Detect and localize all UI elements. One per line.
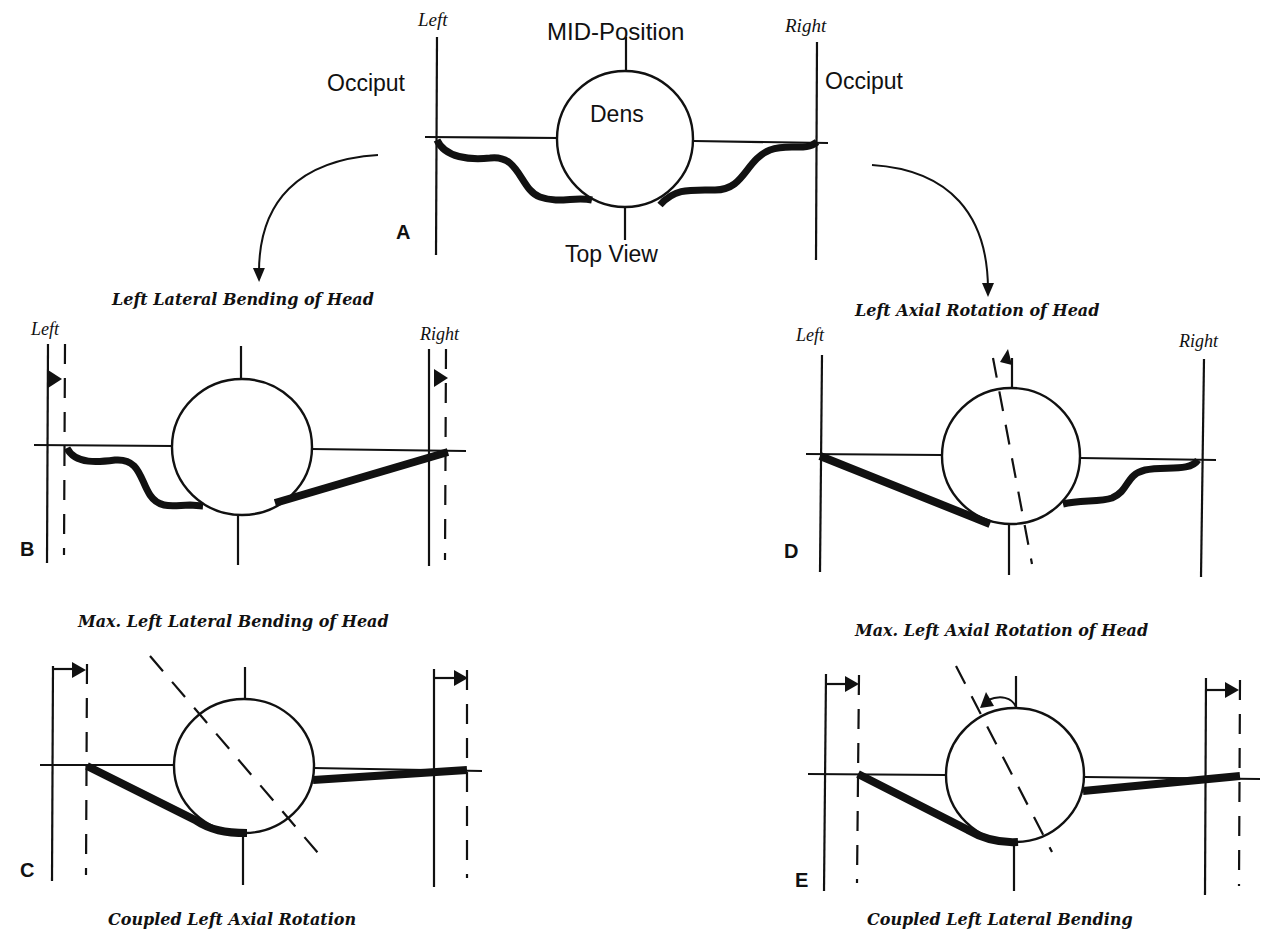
panel-c-right-alar-ligament-taut <box>313 770 467 780</box>
panel-b-title: Left Lateral Bending of Head <box>111 290 374 309</box>
panel-d-left-label: Left <box>795 325 825 345</box>
panel-b-horizontal-axis-left <box>34 445 173 446</box>
panel-a-horizontal-axis-left <box>425 137 560 138</box>
arrow-a-to-b <box>259 155 378 275</box>
panel-a-left-occiput-label: Occiput <box>327 70 406 96</box>
panel-b-left-shift-arrow-icon <box>48 370 62 388</box>
panel-c-letter: C <box>20 859 34 881</box>
panel-a-right-occiput-line <box>816 42 817 260</box>
panel-c-title: Max. Left Lateral Bending of Head <box>77 612 389 631</box>
diagram-canvas: Left MID-Position Right Occiput Occiput … <box>0 0 1283 939</box>
panel-c-left-shift-arrow-icon <box>72 662 86 678</box>
panel-b-right-label: Right <box>419 324 460 344</box>
panel-e-letter: E <box>795 869 808 891</box>
panel-e-left-shifted-line <box>857 675 859 883</box>
panel-d-dens-circle <box>942 388 1080 524</box>
panel-b: Left Lateral Bending of Head Left Right … <box>20 290 466 566</box>
panel-d-right-occiput-line <box>1201 359 1204 577</box>
panel-d-right-label: Right <box>1178 331 1219 351</box>
panel-d-title: Left Axial Rotation of Head <box>854 301 1099 320</box>
panel-a-letter: A <box>396 221 410 243</box>
panel-b-left-occiput-line <box>47 344 48 563</box>
panel-d-rotation-arrow-icon <box>1000 349 1012 365</box>
panel-c-caption: Coupled Left Axial Rotation <box>108 910 356 929</box>
panel-e-dens-circle <box>946 708 1084 842</box>
panel-d-right-alar-ligament-slack <box>1063 460 1198 504</box>
panel-e-right-occiput-line <box>1205 678 1206 895</box>
panel-e: Max. Left Axial Rotation of Head E Coupl… <box>795 621 1260 929</box>
panel-b-left-label: Left <box>30 319 60 339</box>
panel-e-right-shift-arrow-icon <box>1225 682 1239 698</box>
panel-c-left-occiput-line <box>52 666 53 881</box>
panel-d: Left Axial Rotation of Head Left Right D <box>784 301 1219 577</box>
panel-e-left-occiput-line <box>824 674 826 891</box>
panel-e-right-shifted-line <box>1239 680 1240 886</box>
panel-b-letter: B <box>20 538 34 560</box>
panel-a-dens-label: Dens <box>590 101 644 127</box>
panel-e-title: Max. Left Axial Rotation of Head <box>854 621 1148 640</box>
arrow-a-to-d <box>872 165 988 290</box>
panel-a-horizontal-axis-right <box>694 141 828 143</box>
panel-a-right-label: Right <box>784 15 827 36</box>
panel-e-horizontal-axis-left <box>808 774 945 775</box>
panel-a-dens-circle <box>557 71 693 207</box>
panel-a-left-label: Left <box>417 9 448 30</box>
panel-d-letter: D <box>784 540 798 562</box>
panel-d-left-occiput-line <box>820 355 822 572</box>
panel-e-caption: Coupled Left Lateral Bending <box>867 910 1133 929</box>
panel-e-left-shift-arrow-icon <box>845 676 859 692</box>
panel-a: Left MID-Position Right Occiput Occiput … <box>259 0 988 290</box>
panel-a-right-occiput-label: Occiput <box>825 68 904 94</box>
panel-a-title: MID-Position <box>547 18 684 45</box>
panel-e-rotation-arrow-icon <box>980 692 994 708</box>
panel-a-subtitle: Top View <box>565 241 658 267</box>
panel-c: Max. Left Lateral Bending of Head C Coup… <box>20 612 482 929</box>
